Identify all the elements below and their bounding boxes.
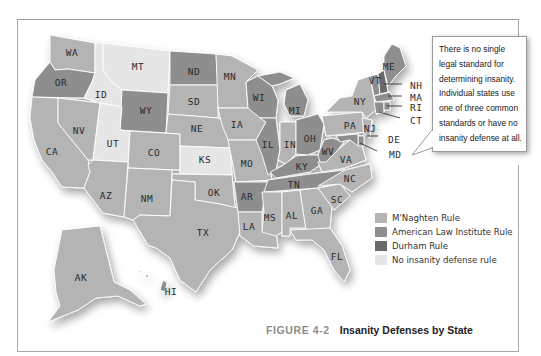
- state-label-mi: MI: [289, 105, 301, 116]
- state-label-ct: CT: [410, 115, 422, 126]
- state-label-hi: HI: [165, 286, 177, 297]
- state-label-oh: OH: [304, 133, 316, 144]
- state-label-nc: NC: [344, 173, 356, 184]
- legend-item-ali: American Law Institute Rule: [375, 225, 513, 239]
- state-label-me: ME: [383, 61, 395, 72]
- state-label-de: DE: [388, 134, 400, 145]
- state-label-il: IL: [262, 139, 274, 150]
- state-label-vt: VT: [369, 75, 381, 86]
- state-label-pa: PA: [344, 120, 356, 131]
- state-label-sd: SD: [188, 96, 200, 107]
- legend-swatch-durham: [375, 241, 387, 251]
- state-label-la: LA: [243, 221, 255, 232]
- state-label-ny: NY: [354, 96, 366, 107]
- state-label-ca: CA: [46, 146, 58, 157]
- state-label-or: OR: [55, 77, 67, 88]
- legend-item-durham: Durham Rule: [375, 239, 513, 253]
- legend-item-none: No insanity defense rule: [375, 253, 513, 267]
- state-label-ar: AR: [241, 191, 253, 202]
- state-label-tx: TX: [197, 227, 209, 238]
- state-label-wi: WI: [253, 92, 265, 103]
- state-HI: [139, 270, 167, 292]
- legend-item-mnaghten: M'Naghten Rule: [375, 211, 513, 225]
- figure-number: FIGURE 4-2: [266, 324, 330, 336]
- legend-swatch-ali: [375, 227, 387, 237]
- legend-swatch-none: [375, 255, 387, 265]
- legend-label: M'Naghten Rule: [392, 213, 460, 223]
- state-AZ: [84, 160, 128, 217]
- state-AK: [48, 226, 146, 322]
- state-label-ok: OK: [208, 187, 220, 198]
- state-label-id: ID: [95, 89, 107, 100]
- state-label-nm: NM: [141, 193, 153, 204]
- state-label-fl: FL: [331, 251, 343, 262]
- legend: M'Naghten Rule American Law Institute Ru…: [375, 211, 513, 267]
- figure-title: Insanity Defenses by State: [340, 324, 473, 336]
- state-label-ak: AK: [75, 272, 87, 283]
- state-label-sc: SC: [331, 194, 343, 205]
- state-label-az: AZ: [100, 190, 112, 201]
- callout-text: There is no single legal standard for de…: [439, 44, 522, 143]
- state-label-ri: RI: [410, 102, 422, 113]
- state-label-va: VA: [340, 154, 352, 165]
- state-label-nj: NJ: [364, 123, 376, 134]
- state-label-ia: IA: [231, 119, 243, 130]
- state-label-al: AL: [286, 210, 298, 221]
- state-label-md: MD: [389, 149, 401, 160]
- state-label-mn: MN: [224, 71, 236, 82]
- legend-swatch-mnaghten: [375, 213, 387, 223]
- state-label-mt: MT: [132, 61, 144, 72]
- legend-label: No insanity defense rule: [392, 255, 497, 265]
- state-label-wy: WY: [140, 105, 152, 116]
- state-label-wa: WA: [66, 47, 78, 58]
- state-label-ky: KY: [296, 161, 308, 172]
- state-label-nh: NH: [410, 80, 422, 91]
- state-label-nd: ND: [188, 66, 200, 77]
- state-label-in: IN: [284, 139, 296, 150]
- state-label-ne: NE: [191, 123, 203, 134]
- legend-label: American Law Institute Rule: [392, 227, 513, 237]
- state-label-ms: MS: [264, 212, 276, 223]
- state-label-mo: MO: [241, 158, 253, 169]
- state-label-tn: TN: [288, 179, 300, 190]
- state-label-ks: KS: [199, 154, 211, 165]
- state-label-co: CO: [148, 147, 160, 158]
- state-label-ga: GA: [311, 205, 323, 216]
- legend-label: Durham Rule: [392, 241, 448, 251]
- state-label-wv: WV: [322, 146, 334, 157]
- callout-box: There is no single legal standard for de…: [432, 36, 527, 152]
- state-label-ut: UT: [107, 138, 119, 149]
- state-label-nv: NV: [73, 125, 85, 136]
- figure-caption: FIGURE 4-2Insanity Defenses by State: [266, 324, 473, 336]
